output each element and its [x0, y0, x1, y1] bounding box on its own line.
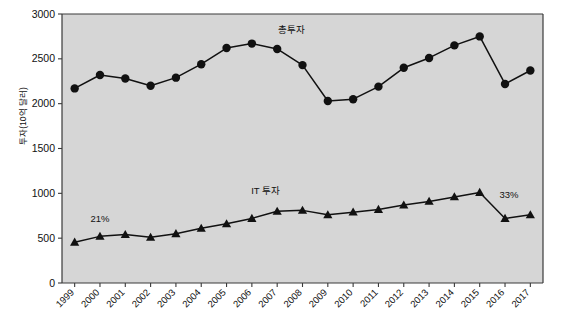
chart-canvas: 투자(10억 달러) 050010001500200025003000 1999… [0, 0, 573, 327]
data-point [273, 45, 281, 53]
series-label-it: IT 투자 [251, 185, 280, 196]
data-point [349, 95, 357, 103]
x-tick-label: 2002 [129, 287, 152, 310]
x-tick-label: 2017 [509, 287, 532, 310]
data-point [121, 74, 129, 82]
data-point [374, 82, 382, 90]
x-tick-label: 2010 [332, 287, 355, 310]
x-tick-label: 2014 [433, 287, 456, 310]
x-tick-label: 2016 [484, 287, 507, 310]
x-axis-ticks: 1999200020012002200320042005200620072008… [53, 283, 531, 309]
x-tick-label: 2005 [205, 287, 228, 310]
y-tick-label: 1000 [32, 187, 56, 199]
x-tick-label: 2009 [307, 287, 330, 310]
data-point [146, 82, 154, 90]
data-point [197, 60, 205, 68]
annotation-label: 21% [90, 213, 110, 224]
y-tick-label: 2500 [32, 52, 56, 64]
x-tick-label: 2001 [104, 287, 127, 310]
x-tick-label: 2006 [231, 287, 254, 310]
data-point [501, 80, 509, 88]
annotation-label: 33% [500, 189, 520, 200]
y-tick-label: 3000 [32, 8, 56, 20]
data-point [298, 61, 306, 69]
x-tick-label: 2007 [256, 287, 279, 310]
y-tick-label: 2000 [32, 97, 56, 109]
data-point [476, 32, 484, 40]
x-tick-label: 1999 [53, 287, 76, 310]
data-point [450, 41, 458, 49]
y-axis-ticks: 050010001500200025003000 [32, 8, 62, 289]
data-point [222, 44, 230, 52]
data-point [526, 66, 534, 74]
x-tick-label: 2008 [281, 287, 304, 310]
x-tick-label: 2003 [155, 287, 178, 310]
data-point [172, 73, 180, 81]
y-tick-label: 1500 [32, 142, 56, 154]
x-tick-label: 2011 [358, 287, 380, 309]
x-tick-label: 2000 [79, 287, 102, 310]
data-point [70, 84, 78, 92]
plot-background [62, 14, 543, 283]
line-chart: 050010001500200025003000 199920002001200… [0, 0, 573, 327]
x-tick-label: 2013 [408, 287, 431, 310]
data-point [425, 54, 433, 62]
data-point [400, 64, 408, 72]
x-tick-label: 2004 [180, 287, 203, 310]
data-point [248, 39, 256, 47]
series-label-total: 총투자 [278, 24, 305, 35]
data-point [96, 71, 104, 79]
y-tick-label: 500 [37, 232, 55, 244]
y-tick-label: 0 [49, 277, 55, 289]
x-tick-label: 2015 [458, 287, 481, 310]
x-tick-label: 2012 [382, 287, 405, 310]
data-point [324, 97, 332, 105]
